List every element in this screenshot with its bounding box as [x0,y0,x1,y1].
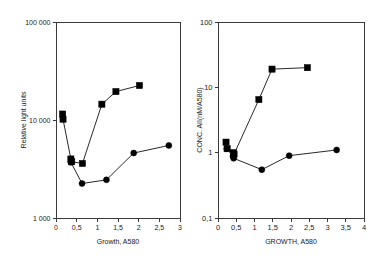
data-point-circle [68,159,74,165]
y-tick-label: 10 000 [29,117,51,124]
data-point-square [256,96,262,102]
data-point-square [60,116,66,122]
x-tick-label: 3 [325,223,329,232]
y-tick-label: 10 [204,83,212,92]
y-tick-label: 1 000 [33,215,51,222]
series-line-squares [63,85,140,163]
y-tick-label: 1 [208,148,212,157]
x-tick-label: 1 [252,223,256,232]
data-point-circle [286,153,292,159]
right-plot-frame [218,22,364,218]
chart-panel-right: 0,1110100 00,511,522,533,54 GROWTH, A580… [194,0,388,268]
x-tick-label: 3 [178,224,182,231]
data-point-circle [231,155,237,161]
data-point-square [79,160,85,166]
y-tick-label: 100 000 [25,19,50,26]
plot-area-border [218,22,364,218]
x-tick-label: 1 [95,224,99,231]
right-y-axis-title: CONC. AII(nM/A580) [196,87,204,152]
left-chart-svg: 1 00010 000100 000 00,511,522,53 Growth,… [0,0,194,268]
left-plot-frame [56,22,180,218]
x-tick-label: 0,5 [72,224,82,231]
left-y-axis-ticks: 1 00010 000100 000 [25,19,56,222]
y-tick-label: 100 [200,18,213,27]
data-point-square [304,65,310,71]
x-tick-label: 0 [216,223,220,232]
data-point-square [136,82,142,88]
x-tick-label: 2 [137,224,141,231]
data-point-square [113,88,119,94]
x-tick-label: 0,5 [231,223,241,232]
left-y-axis-title: Relative light units [20,91,28,148]
right-data-series [223,65,340,173]
data-point-circle [103,177,109,183]
x-tick-label: 1,5 [113,224,123,231]
right-x-axis-title: GROWTH, A580 [265,238,317,245]
series-line-circles [227,149,337,170]
chart-panel-left: 1 00010 000100 000 00,511,522,53 Growth,… [0,0,194,268]
data-point-circle [224,146,230,152]
data-point-circle [259,167,265,173]
series-line-squares [226,68,307,154]
data-point-circle [131,150,137,156]
x-tick-label: 3,5 [341,223,351,232]
data-point-square [99,101,105,107]
data-point-circle [166,142,172,148]
x-tick-label: 2,5 [304,223,314,232]
left-data-series [60,82,172,186]
right-chart-svg: 0,1110100 00,511,522,533,54 GROWTH, A580… [194,0,388,268]
figure-root: 1 00010 000100 000 00,511,522,53 Growth,… [0,0,388,268]
x-tick-label: 0 [54,224,58,231]
data-point-square [223,139,229,145]
data-point-circle [79,180,85,186]
plot-area-border [56,22,180,218]
right-x-axis-ticks: 00,511,522,533,54 [216,218,366,232]
data-point-square [269,66,275,72]
x-tick-label: 1,5 [268,223,278,232]
x-tick-label: 2,5 [154,224,164,231]
data-point-circle [334,147,340,153]
x-tick-label: 4 [362,223,366,232]
x-tick-label: 2 [289,223,293,232]
y-tick-label: 0,1 [202,214,212,223]
left-x-axis-title: Growth, A580 [97,238,140,245]
left-x-axis-ticks: 00,511,522,53 [54,218,182,231]
